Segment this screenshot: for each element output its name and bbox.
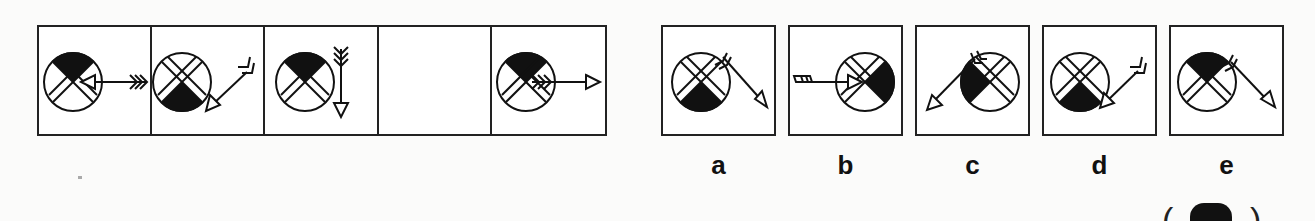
option-d-label: d [1042,150,1157,181]
sequence-cell-missing [379,27,492,134]
target-arrow-figure-icon [152,27,266,134]
sequence-cell-2 [152,27,265,134]
sequence-cell-5 [492,27,605,134]
option-b[interactable] [788,25,903,136]
sequence-cell-3 [265,27,378,134]
target-arrow-figure-icon [1044,27,1159,138]
answer-bracket-right: ) [1250,200,1261,221]
scan-speck [78,176,82,179]
option-c-label: c [915,150,1030,181]
target-arrow-figure-icon [1171,27,1286,138]
target-arrow-figure-icon [663,27,778,138]
target-arrow-figure-icon [492,27,606,134]
option-a[interactable] [661,25,776,136]
target-arrow-figure-icon [39,27,153,134]
option-b-label: b [788,150,903,181]
question-sequence [37,25,607,136]
answer-bracket-left: ( [1162,200,1173,221]
target-arrow-figure-icon [265,27,379,134]
option-c[interactable] [915,25,1030,136]
option-e[interactable] [1169,25,1284,136]
target-arrow-figure-icon [917,27,1032,138]
option-a-label: a [661,150,776,181]
option-e-label: e [1169,150,1284,181]
option-d[interactable] [1042,25,1157,136]
sequence-cell-1 [39,27,152,134]
answer-blot [1190,203,1232,221]
target-arrow-figure-icon [790,27,905,138]
